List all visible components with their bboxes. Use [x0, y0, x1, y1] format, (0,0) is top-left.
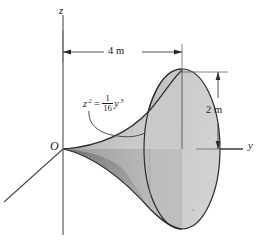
- engineering-figure: z y O 4 m 2 m z2 = 1 16 y3: [0, 0, 268, 245]
- dim-2m-arrow-top: [216, 72, 221, 80]
- lower-body-midtone: [150, 149, 182, 229]
- origin-label: O: [50, 140, 59, 152]
- dim-4m-arrow-left: [63, 50, 71, 55]
- dim-4m-arrow-right: [174, 50, 182, 55]
- dimension-label-4m: 4 m: [108, 46, 124, 57]
- equation-fraction-numerator: 1: [104, 94, 110, 103]
- equation-rhs-variable: y: [114, 98, 118, 109]
- x-axis-line: [4, 149, 63, 202]
- equation-equals-sign: =: [94, 98, 100, 109]
- curve-equation-label: z2 = 1 16 y3: [83, 94, 124, 114]
- equation-lhs-exponent: 2: [88, 97, 91, 104]
- equation-fraction: 1 16: [102, 94, 113, 114]
- y-axis-label: y: [248, 140, 253, 151]
- figure-canvas: [0, 0, 268, 245]
- equation-lhs-variable: z: [83, 98, 87, 109]
- dimension-label-2m: 2 m: [206, 105, 222, 116]
- surface-speck: [192, 209, 194, 211]
- z-axis-label: z: [59, 5, 63, 16]
- equation-fraction-denominator: 16: [102, 104, 113, 113]
- equation-rhs-exponent: 3: [120, 97, 123, 104]
